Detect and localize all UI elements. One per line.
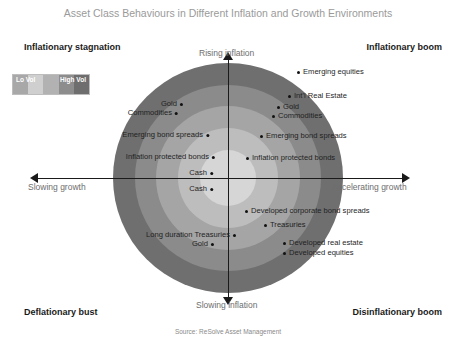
axis-label-bottom: Slowing inflation [196,300,257,310]
data-point-label: Treasuries [264,220,306,229]
data-point-label: Commodities [128,108,178,117]
data-point-label: Inflation protected bonds [246,153,335,162]
quadrant-label-bottom-right: Disinflationary boom [352,307,442,317]
data-point-label: Gold [192,239,214,248]
data-point-label: Developed equities [283,248,354,257]
data-point-label: Cash [189,168,213,177]
point-marker [180,103,183,106]
data-point-label: Int'l Real Estate [288,91,347,100]
volatility-legend: Lo Vol High Vol [12,74,90,95]
vertical-axis [228,58,229,301]
data-point-label: Inflation protected bonds [126,152,215,161]
axis-label-left: Slowing growth [28,182,86,192]
data-point-label: Emerging equities [297,67,364,76]
data-point-label: Commodities [272,111,322,120]
data-point-label: Gold [277,102,299,111]
quadrant-label-top-right: Inflationary boom [366,42,442,52]
point-marker [260,135,263,138]
data-point-label: Emerging bond spreads [260,131,347,140]
point-marker [288,95,291,98]
legend-low-label: Lo Vol [16,76,35,85]
point-marker [246,157,249,160]
point-marker [233,234,236,237]
point-marker [206,134,209,137]
point-marker [264,224,267,227]
axis-label-right: Accelerating growth [332,182,407,192]
point-marker [210,172,213,175]
source-attribution: Source: ReSolve Asset Management [0,328,456,335]
point-marker [175,112,178,115]
data-point-label: Cash [189,184,213,193]
point-marker [297,71,300,74]
data-point-label: Developed corporate bond spreads [245,206,370,215]
quadrant-label-top-left: Inflationary stagnation [24,42,121,52]
point-marker [212,156,215,159]
point-marker [211,243,214,246]
quadrant-label-bottom-left: Deflationary bust [24,307,98,317]
point-marker [283,252,286,255]
data-point-label: Long duration Treasuries [146,230,236,239]
data-point-label: Developed real estate [283,238,363,247]
axis-label-top: Rising inflation [199,48,254,58]
data-point-label: Emerging bond spreads [122,130,209,139]
data-point-label: Gold [161,99,183,108]
legend-segment [43,75,58,94]
point-marker [283,242,286,245]
point-marker [277,106,280,109]
point-marker [245,210,248,213]
chart-container: Asset Class Behaviours in Different Infl… [0,0,456,354]
point-marker [210,188,213,191]
legend-high-label: High Vol [60,76,86,85]
point-marker [272,115,275,118]
horizontal-axis [36,178,408,179]
